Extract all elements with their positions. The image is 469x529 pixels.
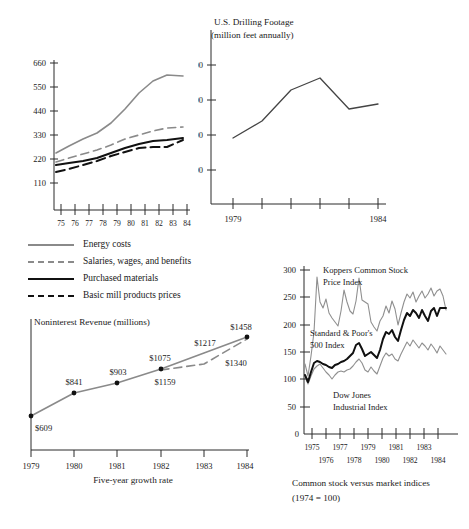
cost-x-tick-4: 79 (113, 219, 121, 228)
cost-x-tick-9: 84 (183, 219, 191, 228)
stock-x-tick-bot-1: 1978 (346, 456, 361, 465)
drilling-x-tick-1: 1984 (370, 214, 388, 224)
stock-y-tick-5: 50 (288, 402, 297, 412)
drilling-y-tick-1: 300 (198, 95, 203, 105)
cost-x-tick-7: 82 (155, 219, 163, 228)
stock-x-tick-bot-3: 1982 (402, 456, 417, 465)
common-stock-chart: 300 250 200 150 100 50 0 1975 1977 1979 … (258, 258, 469, 526)
legend-key-solid-black-icon (28, 274, 74, 284)
revenue-x-ticks: 1979 1980 1981 1982 1983 1984 (23, 450, 255, 471)
stock-label-dowjones-line2: Industrial Index (333, 402, 388, 412)
stock-x-tick-top-4: 1983 (416, 443, 431, 452)
drilling-title-line2: (million feet annually) (211, 30, 294, 40)
stock-x-tick-bot-4: 1984 (430, 456, 445, 465)
stock-y-tick-1: 250 (283, 292, 296, 302)
stock-y-tick-4: 100 (283, 374, 296, 384)
revenue-label-3: $1075 (149, 353, 170, 363)
stock-caption-line2: (1974 = 100) (292, 493, 340, 503)
cost-y-tick-1: 550 (33, 82, 46, 92)
drilling-title-line1: U.S. Drilling Footage (214, 17, 294, 27)
revenue-label-4: $1159 (154, 377, 175, 387)
series-salaries-wages-benefits (56, 127, 183, 162)
series-drilling-footage (233, 78, 378, 138)
cost-chart-legend: Energy costs Salaries, wages, and benefi… (28, 236, 243, 304)
revenue-x-tick-1: 1980 (66, 461, 83, 471)
legend-label-2: Purchased materials (83, 274, 158, 283)
drilling-y-ticks: 400 300 200 100 (198, 60, 216, 175)
revenue-x-tick-2: 1981 (109, 461, 126, 471)
revenue-label-5: $1217 (194, 338, 216, 348)
stock-caption-line1: Common stock versus market indices (292, 478, 430, 488)
cost-x-tick-2: 77 (85, 219, 93, 228)
cost-x-tick-3: 78 (99, 219, 107, 228)
stock-x-tick-top-2: 1979 (360, 443, 375, 452)
legend-item-salaries: Salaries, wages, and benefits (28, 253, 243, 270)
drilling-footage-chart: U.S. Drilling Footage (million feet annu… (198, 8, 458, 236)
stock-x-tick-bot-0: 1976 (318, 456, 333, 465)
stock-y-tick-3: 150 (283, 347, 296, 357)
legend-item-energy-costs: Energy costs (28, 236, 243, 253)
cost-x-tick-8: 83 (169, 219, 177, 228)
cost-y-tick-2: 440 (33, 106, 46, 116)
cost-y-tick-0: 660 (33, 58, 46, 68)
stock-x-tick-top-3: 1981 (388, 443, 403, 452)
cost-x-tick-6: 81 (141, 219, 149, 228)
cost-x-tick-0: 75 (57, 219, 65, 228)
stock-y-tick-2: 200 (283, 320, 296, 330)
revenue-x-tick-4: 1983 (196, 461, 213, 471)
figure-container: 660 550 440 330 220 110 75 76 77 78 79 8… (0, 0, 469, 529)
stock-x-tick-top-1: 1977 (332, 443, 347, 452)
cost-y-tick-3: 330 (33, 130, 46, 140)
series-koppers-common-stock (305, 277, 446, 376)
legend-key-solid-gray-icon (28, 240, 74, 250)
revenue-title: Noninterest Revenue (millions) (34, 317, 150, 327)
drilling-y-tick-2: 200 (198, 130, 203, 140)
cost-chart-x-ticks: 75 76 77 78 79 80 81 82 83 84 (57, 204, 191, 228)
legend-label-0: Energy costs (83, 240, 131, 249)
revenue-label-2: $903 (109, 367, 126, 377)
revenue-x-tick-5: 1984 (237, 461, 255, 471)
stock-label-koppers-line1: Koppers Common Stock (323, 265, 409, 275)
stock-x-tick-bot-2: 1980 (374, 456, 389, 465)
drilling-x-ticks: 1979 1984 (225, 198, 388, 224)
stock-y-tick-0: 300 (283, 265, 296, 275)
drilling-y-tick-3: 100 (198, 165, 203, 175)
cost-x-tick-5: 80 (127, 219, 135, 228)
revenue-x-tick-3: 1982 (153, 461, 170, 471)
revenue-label-6: $1340 (225, 358, 246, 368)
revenue-label-0: $609 (35, 423, 52, 433)
revenue-label-1: $841 (65, 377, 82, 387)
stock-label-koppers-line2: Price Index (323, 277, 363, 287)
stock-y-ticks: 300 250 200 150 100 50 0 (283, 265, 310, 439)
legend-item-purchased-materials: Purchased materials (28, 270, 243, 287)
cost-index-chart: 660 550 440 330 220 110 75 76 77 78 79 8… (8, 52, 198, 232)
stock-label-sp500-line2: 500 Index (310, 340, 345, 350)
stock-label-dowjones-line1: Dow Jones (333, 390, 372, 400)
legend-key-dashed-black-icon (28, 291, 74, 301)
legend-key-dashed-gray-icon (28, 257, 74, 267)
stock-label-sp500-line1: Standard & Poor's (310, 328, 373, 338)
cost-x-tick-1: 76 (71, 219, 79, 228)
legend-label-1: Salaries, wages, and benefits (83, 257, 191, 266)
revenue-label-7: $1458 (230, 322, 251, 332)
legend-item-basic-mill-products: Basic mill products prices (28, 287, 243, 304)
stock-x-tick-top-0: 1975 (304, 443, 319, 452)
cost-y-tick-5: 110 (34, 178, 46, 188)
revenue-xlabel: Five-year growth rate (93, 475, 173, 485)
drilling-x-tick-0: 1979 (225, 214, 242, 224)
cost-y-tick-4: 220 (33, 154, 46, 164)
drilling-y-tick-0: 400 (198, 60, 203, 70)
noninterest-revenue-chart: Noninterest Revenue (millions) 1979 1980… (8, 308, 258, 488)
stock-y-tick-6: 0 (295, 429, 299, 439)
legend-label-3: Basic mill products prices (83, 291, 181, 300)
revenue-x-tick-0: 1979 (23, 461, 40, 471)
series-noninterest-revenue-actual (31, 337, 247, 416)
